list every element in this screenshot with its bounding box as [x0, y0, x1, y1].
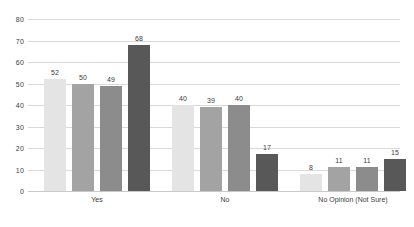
bar: 8 [300, 174, 322, 191]
bar-value-label: 11 [363, 157, 370, 164]
bar: 17 [256, 154, 278, 191]
y-tick-label-80: 80 [0, 16, 24, 23]
bar: 40 [172, 105, 194, 191]
bar-value-label: 52 [51, 69, 59, 76]
bar-value-label: 40 [235, 95, 243, 102]
bar-value-label: 17 [263, 144, 271, 151]
y-tick-label-70: 70 [0, 37, 24, 44]
y-tick-label-40: 40 [0, 102, 24, 109]
y-axis-labels: 80706050403020100 [0, 19, 24, 191]
x-category-label: No Opinion (Not Sure) [318, 196, 387, 203]
bar-value-label: 15 [391, 149, 399, 156]
y-tick-label-60: 60 [0, 59, 24, 66]
bar: 40 [228, 105, 250, 191]
bar: 39 [200, 107, 222, 191]
bar-value-label: 49 [107, 76, 115, 83]
gridline-0 [28, 191, 400, 192]
bar: 68 [128, 45, 150, 191]
bar-value-label: 11 [335, 157, 342, 164]
bar: 11 [328, 167, 350, 191]
bar: 50 [72, 84, 94, 192]
y-tick-label-20: 20 [0, 145, 24, 152]
y-tick-label-0: 0 [0, 188, 24, 195]
gridline-70 [28, 41, 400, 42]
bar: 11 [356, 167, 378, 191]
x-category-label: No [221, 196, 230, 203]
bar-value-label: 50 [79, 74, 87, 81]
bar: 15 [384, 159, 406, 191]
gridline-60 [28, 62, 400, 63]
bar-value-label: 40 [179, 95, 187, 102]
bar-value-label: 68 [135, 35, 143, 42]
bar-value-label: 8 [309, 164, 313, 171]
bar-value-label: 39 [207, 97, 215, 104]
gridline-80 [28, 19, 400, 20]
y-tick-label-30: 30 [0, 123, 24, 130]
y-tick-label-50: 50 [0, 80, 24, 87]
x-category-label: Yes [91, 196, 102, 203]
bar: 49 [100, 86, 122, 191]
plot-area: 52504968403940178111115 [28, 19, 400, 191]
bar-chart: 80706050403020100 5250496840394017811111… [0, 0, 414, 227]
y-tick-label-10: 10 [0, 166, 24, 173]
bar: 52 [44, 79, 66, 191]
